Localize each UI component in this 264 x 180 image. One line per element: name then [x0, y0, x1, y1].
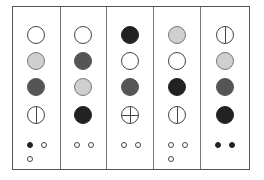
open-dot-icon — [88, 142, 94, 148]
light-circle-icon — [74, 78, 92, 96]
puzzle-column-4 — [154, 7, 202, 169]
mid-circle-icon — [27, 78, 45, 96]
open-dot-icon — [168, 156, 174, 162]
open-dot-icon — [168, 142, 174, 148]
filled-dot-icon — [229, 142, 235, 148]
white-circle-icon — [168, 52, 186, 70]
dark-circle-icon — [216, 106, 234, 124]
circle-cross-icon — [121, 106, 139, 124]
puzzle-column-1 — [13, 7, 61, 169]
white-circle-icon — [27, 26, 45, 44]
white-circle-icon — [74, 26, 92, 44]
mid-circle-icon — [121, 78, 139, 96]
filled-dot-icon — [27, 142, 33, 148]
open-dot-icon — [41, 142, 47, 148]
filled-dot-icon — [215, 142, 221, 148]
dark-circle-icon — [168, 78, 186, 96]
open-dot-icon — [74, 142, 80, 148]
white-circle-icon — [121, 52, 139, 70]
circle-vertical-line-icon — [168, 106, 186, 124]
open-dot-icon — [121, 142, 127, 148]
light-circle-icon — [27, 52, 45, 70]
circle-vertical-line-icon — [27, 106, 45, 124]
light-circle-icon — [168, 26, 186, 44]
puzzle-frame — [12, 6, 250, 170]
mid-circle-icon — [74, 52, 92, 70]
mid-circle-icon — [216, 78, 234, 96]
puzzle-column-3 — [107, 7, 154, 169]
light-circle-icon — [216, 52, 234, 70]
dark-circle-icon — [121, 26, 139, 44]
puzzle-column-2 — [61, 7, 108, 169]
open-dot-icon — [135, 142, 141, 148]
circle-vertical-line-icon — [216, 26, 234, 44]
dark-circle-icon — [74, 106, 92, 124]
open-dot-icon — [182, 142, 188, 148]
open-dot-icon — [27, 156, 33, 162]
puzzle-column-5 — [201, 7, 249, 169]
